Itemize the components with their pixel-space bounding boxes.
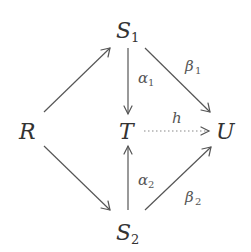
label-alpha2-base: α xyxy=(138,171,148,189)
label-beta2-sub: 2 xyxy=(195,196,201,207)
node-t: T xyxy=(119,119,136,144)
node-r: R xyxy=(18,119,36,144)
node-s2-base: S xyxy=(116,220,131,245)
edge-s2-u: β 2 xyxy=(145,147,211,210)
label-beta1-base: β xyxy=(184,57,194,75)
edge-t-u: h xyxy=(144,109,209,135)
edge-s1-u: β 1 xyxy=(145,48,210,112)
node-u-base: U xyxy=(216,119,236,144)
edge-r-s1-line xyxy=(44,48,110,112)
label-alpha1-sub: 1 xyxy=(148,77,154,88)
edge-s1-t: α 1 xyxy=(124,48,154,114)
node-s1-sub: 1 xyxy=(131,30,139,45)
node-s1-base: S xyxy=(116,18,131,43)
label-alpha2-sub: 2 xyxy=(148,179,154,190)
edge-r-s2 xyxy=(44,146,110,210)
commutative-diagram: S 1 R T U S 2 α 1 α 2 β xyxy=(0,0,251,252)
node-u: U xyxy=(216,119,236,144)
edge-s1-u-line xyxy=(145,48,210,112)
edge-s2-t: α 2 xyxy=(124,146,154,210)
node-t-base: T xyxy=(119,119,136,144)
label-alpha1-base: α xyxy=(138,69,148,87)
edge-r-s2-line xyxy=(44,146,110,210)
label-beta1-sub: 1 xyxy=(195,65,201,76)
node-s2: S 2 xyxy=(116,220,139,247)
node-r-base: R xyxy=(18,119,36,144)
label-beta2-base: β xyxy=(184,188,194,206)
node-s2-sub: 2 xyxy=(131,232,139,247)
node-s1: S 1 xyxy=(116,18,139,45)
edge-r-s1 xyxy=(44,48,110,112)
label-h: h xyxy=(172,109,182,127)
